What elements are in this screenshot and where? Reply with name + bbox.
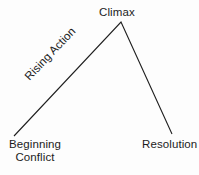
story-arc-polyline bbox=[14, 22, 172, 136]
label-beginning: Beginning bbox=[9, 138, 61, 150]
label-resolution: Resolution bbox=[142, 138, 197, 151]
label-conflict: Conflict bbox=[5, 151, 65, 164]
label-climax: Climax bbox=[99, 6, 135, 19]
label-beginning-conflict: Beginning Conflict bbox=[5, 138, 65, 164]
plot-diagram: Climax Rising Action Beginning Conflict … bbox=[0, 0, 199, 175]
